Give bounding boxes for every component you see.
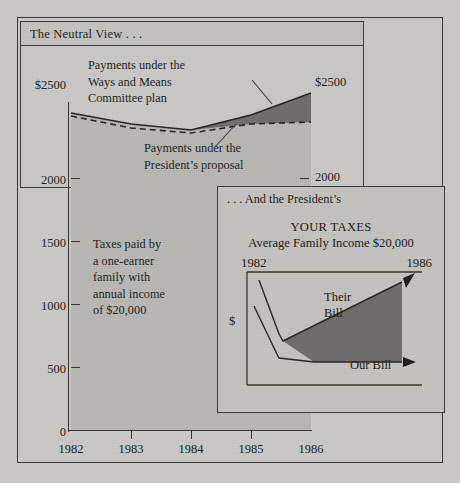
inset-chart-arrow-our-bill bbox=[403, 357, 416, 367]
y-tick-1500 bbox=[71, 241, 80, 242]
y-label-2000: 2000 bbox=[41, 173, 66, 187]
main-chart-leader-ways-and-means bbox=[252, 80, 272, 104]
x-label-1985: 1985 bbox=[239, 442, 264, 457]
annotation-ways-and-means: Payments under the Ways and Means Commit… bbox=[88, 57, 185, 107]
x-label-1982: 1982 bbox=[59, 442, 84, 457]
x-tick-1983 bbox=[131, 431, 132, 439]
x-tick-1984 bbox=[191, 431, 192, 439]
y-label-right-2500: $2500 bbox=[315, 75, 346, 90]
x-tick-1985 bbox=[251, 431, 252, 439]
x-label-1984: 1984 bbox=[179, 442, 204, 457]
y-label-500: 500 bbox=[47, 362, 66, 376]
y-tick-0 bbox=[71, 430, 80, 431]
y-tick-2000 bbox=[71, 178, 80, 179]
annotation-taxes-paid: Taxes paid by a one-earner family with a… bbox=[93, 236, 165, 319]
inset-label-their-bill: Their Bill bbox=[324, 289, 351, 321]
y-label-right-2000: 2000 bbox=[315, 170, 340, 185]
inset-chart-arrow-their-bill bbox=[403, 273, 415, 288]
y-tick-500 bbox=[71, 367, 80, 368]
inset-label-our-bill: Our Bill bbox=[350, 358, 391, 373]
y-label-1500: 1500 bbox=[41, 236, 66, 250]
y-label-0: 0 bbox=[60, 425, 66, 439]
annotation-presidents-proposal: Payments under the President’s proposal bbox=[144, 140, 243, 173]
inset-panel: . . . And the President’s YOUR TAXES Ave… bbox=[217, 186, 445, 413]
x-label-1983: 1983 bbox=[119, 442, 144, 457]
y-tick-right-2000 bbox=[300, 178, 309, 179]
y-label-1000: 1000 bbox=[41, 299, 66, 313]
x-label-1986: 1986 bbox=[299, 442, 324, 457]
inset-panel-title: . . . And the President’s bbox=[217, 186, 445, 211]
y-label-2500: $2500 bbox=[35, 78, 66, 92]
y-tick-1000 bbox=[71, 304, 80, 305]
figure-root: The Neutral View . . . 0 500 1000 bbox=[0, 0, 460, 483]
